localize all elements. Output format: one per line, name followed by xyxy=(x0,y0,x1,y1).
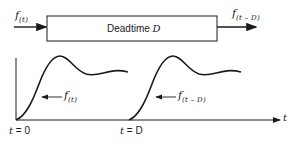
curve-f-t xyxy=(16,56,128,120)
x-axis-label: t xyxy=(283,113,287,123)
block-title-text: Deadtime xyxy=(107,23,150,34)
curve-label-f-t: f(t) xyxy=(64,90,77,101)
tick-eq: = D xyxy=(124,125,143,136)
tick-t-d: t = D xyxy=(120,126,143,136)
block-title-var: D xyxy=(153,23,161,34)
curve-label-arg: (t – D) xyxy=(182,96,206,104)
output-arg: (t – D) xyxy=(236,14,260,22)
input-arg: (t) xyxy=(19,16,28,24)
input-label: f(t) xyxy=(15,10,28,21)
curve-f-t-minus-d xyxy=(129,56,241,120)
curve-label-f-t-minus-d: f(t – D) xyxy=(178,90,206,101)
output-label: f(t – D) xyxy=(232,8,260,19)
block-title: Deadtime D xyxy=(107,24,161,34)
tick-t-0: t = 0 xyxy=(9,126,30,136)
tick-eq: = 0 xyxy=(13,125,30,136)
curve-label-arg: (t) xyxy=(68,96,77,104)
